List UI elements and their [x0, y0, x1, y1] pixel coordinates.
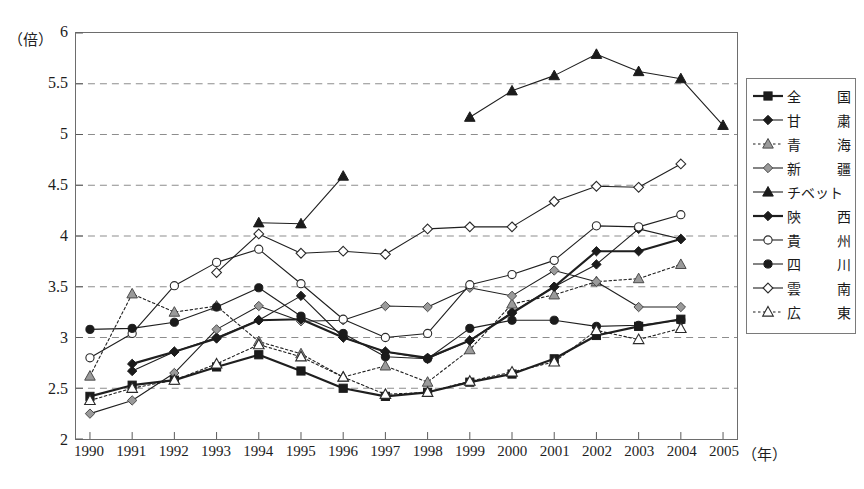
chart-page: （倍） 65.554.543.532.52 199019911992199319…: [0, 0, 864, 489]
legend-item-陝西[interactable]: 陝西: [751, 204, 851, 228]
data-point-marker: [424, 355, 432, 363]
legend-item-甘粛[interactable]: 甘粛: [751, 108, 851, 132]
data-point-marker: [338, 246, 348, 256]
x-tick-label: 1991: [116, 443, 146, 460]
y-axis-tick-labels: 65.554.543.532.52: [16, 32, 68, 440]
y-tick-label: 3: [22, 329, 68, 347]
data-point-marker: [763, 139, 774, 149]
y-tick-label: 6: [22, 23, 68, 41]
data-point-marker: [763, 283, 773, 293]
data-point-marker: [339, 384, 347, 392]
legend-item-全国[interactable]: 全国: [751, 84, 851, 108]
series-line: [132, 239, 681, 364]
legend-marker-diamond-open-icon: [751, 278, 785, 298]
x-tick-label: 2000: [497, 443, 527, 460]
data-point-marker: [764, 260, 772, 268]
x-axis-tick-labels: 1990199119921993199419951996199719981999…: [75, 443, 738, 467]
data-point-marker: [296, 248, 306, 258]
legend-label: 青海: [787, 134, 851, 154]
legend-marker-diamond-filled-icon: [751, 110, 785, 130]
x-tick-label: 2001: [540, 443, 570, 460]
legend-label: 貴州: [787, 230, 851, 250]
legend-marker-square-filled-icon: [751, 86, 785, 106]
series-line: [259, 176, 343, 224]
x-tick-label: 1995: [286, 443, 316, 460]
legend-item-四川[interactable]: 四川: [751, 252, 851, 276]
data-point-marker: [422, 377, 433, 387]
y-tick-label: 2: [22, 431, 68, 449]
data-point-marker: [550, 316, 558, 324]
x-tick-label: 1998: [413, 443, 443, 460]
data-point-marker: [86, 325, 94, 333]
data-point-marker: [128, 324, 136, 332]
x-tick-label: 2003: [624, 443, 654, 460]
data-point-marker: [170, 282, 178, 290]
data-point-marker: [633, 273, 644, 283]
legend-marker-diamond-grey-icon: [751, 158, 785, 178]
legend-label: 新疆: [787, 158, 851, 178]
x-tick-label: 1999: [455, 443, 485, 460]
legend-label: 甘粛: [787, 110, 851, 130]
x-tick-label: 1990: [74, 443, 104, 460]
data-point-marker: [550, 256, 558, 264]
data-point-marker: [381, 249, 391, 259]
legend-label: 広東: [787, 302, 851, 322]
data-point-marker: [380, 360, 391, 370]
data-point-marker: [465, 222, 475, 232]
legend-label: 雲南: [787, 278, 851, 298]
y-tick-label: 5.5: [22, 74, 68, 92]
data-point-marker: [127, 359, 136, 368]
x-tick-label: 1996: [328, 443, 358, 460]
data-point-marker: [592, 222, 600, 230]
data-point-marker: [507, 291, 516, 300]
data-point-marker: [634, 182, 644, 192]
data-point-marker: [255, 245, 263, 253]
data-point-marker: [253, 217, 264, 227]
legend-item-青海[interactable]: 青海: [751, 132, 851, 156]
data-point-marker: [170, 347, 179, 356]
x-tick-label: 1997: [370, 443, 400, 460]
data-point-marker: [255, 284, 263, 292]
legend-marker-triangle-filled-icon: [751, 182, 785, 202]
x-tick-label: 2004: [667, 443, 697, 460]
data-point-marker: [381, 301, 390, 310]
legend-marker-triangle-open-icon: [751, 302, 785, 322]
series-line: [470, 54, 723, 125]
legend-label: 陝西: [787, 206, 851, 226]
y-tick-label: 5: [22, 125, 68, 143]
data-point-marker: [170, 318, 178, 326]
legend-item-貴州[interactable]: 貴州: [751, 228, 851, 252]
y-tick-label: 3.5: [22, 278, 68, 296]
data-point-marker: [634, 247, 643, 256]
data-point-marker: [212, 334, 221, 343]
data-point-marker: [423, 224, 433, 234]
data-point-marker: [86, 354, 94, 362]
chart-legend: 全国甘粛青海新疆チベット陝西貴州四川雲南広東: [746, 78, 856, 334]
legend-item-チベット[interactable]: チベット: [751, 180, 851, 204]
data-point-marker: [549, 70, 560, 80]
series-layer: [76, 33, 737, 439]
legend-item-新疆[interactable]: 新疆: [751, 156, 851, 180]
series-line: [217, 164, 681, 273]
x-tick-label: 2005: [709, 443, 739, 460]
legend-label: 四川: [787, 254, 851, 274]
data-point-marker: [764, 92, 772, 100]
legend-item-広東[interactable]: 広東: [751, 300, 851, 324]
data-point-marker: [550, 266, 559, 275]
data-point-marker: [339, 329, 347, 337]
data-point-marker: [338, 372, 349, 382]
data-point-marker: [212, 303, 220, 311]
legend-item-雲南[interactable]: 雲南: [751, 276, 851, 300]
plot-area: [75, 32, 738, 440]
data-point-marker: [297, 280, 305, 288]
data-point-marker: [338, 171, 349, 181]
data-point-marker: [85, 409, 94, 418]
legend-label: チベット: [787, 182, 851, 202]
data-point-marker: [676, 323, 687, 333]
data-point-marker: [634, 302, 643, 311]
x-tick-label: 2002: [582, 443, 612, 460]
data-point-marker: [592, 181, 602, 191]
data-point-marker: [381, 333, 389, 341]
x-tick-label: 1993: [201, 443, 231, 460]
data-point-marker: [339, 315, 347, 323]
